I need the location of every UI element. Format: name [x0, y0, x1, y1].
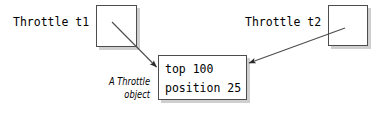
- object-caption-line-2: object: [81, 88, 150, 101]
- reference-label-t1: Throttle t1: [13, 15, 89, 29]
- object-field-position: position 25: [165, 79, 246, 98]
- object-box: top 100 position 25: [158, 55, 247, 100]
- object-field-top: top 100: [165, 60, 246, 79]
- reference-box-t1: [96, 5, 137, 47]
- object-caption: A Throttle object: [81, 75, 150, 100]
- reference-box-t2: [328, 5, 368, 46]
- reference-label-t2: Throttle t2: [245, 15, 321, 29]
- object-reference-diagram: Throttle t1 Throttle t2 top 100 position…: [0, 0, 381, 115]
- object-caption-line-1: A Throttle: [81, 75, 150, 88]
